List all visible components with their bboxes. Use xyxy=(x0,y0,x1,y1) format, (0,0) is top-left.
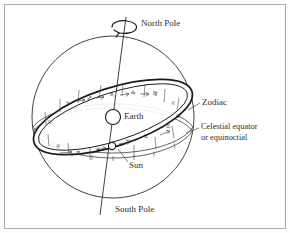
zodiac-glyph-gemini: ♊ xyxy=(166,123,171,129)
zodiac-glyph-pisces: ♓ xyxy=(56,143,61,149)
celestial-sphere-figure: ♏ ♎ ♍ ♌ ♋ ♊ ♐ ♑ ♈ ♓ ♒ ♉ ♓ ♈ North Pole S… xyxy=(0,0,290,233)
zodiac-glyph-aquarius: ♒ xyxy=(76,149,81,155)
celestial-equator-label-line2: or equinoctial xyxy=(201,133,248,142)
diagram-canvas: ♏ ♎ ♍ ♌ ♋ ♊ ♐ ♑ ♈ ♓ ♒ ♉ ♓ ♈ North Pole S… xyxy=(0,0,290,233)
zodiac-glyph-aries: ♈ xyxy=(48,119,53,125)
celestial-equator-label-line1: Celestial equator xyxy=(201,122,258,131)
sun-body xyxy=(108,142,115,149)
earth-body xyxy=(106,110,121,125)
north-pole-label: North Pole xyxy=(141,18,180,28)
zodiac-glyph-libra: ♎ xyxy=(131,89,136,95)
earth-label: Earth xyxy=(124,111,144,121)
zodiac-glyph-virgo: ♍ xyxy=(153,90,158,96)
zodiac-glyph-leo: ♌ xyxy=(171,100,176,106)
zodiac-glyph-cancer: ♋ xyxy=(176,113,181,119)
sun-label: Sun xyxy=(129,160,144,170)
equator-glyph-aries: ♈ xyxy=(126,138,131,144)
zodiac-label: Zodiac xyxy=(202,97,227,107)
zodiac-glyph-scorpio: ♏ xyxy=(110,91,115,97)
equator-glyph-pisces: ♓ xyxy=(96,146,101,152)
zodiac-glyph-capricorn: ♑ xyxy=(66,100,71,106)
zodiac-glyph-taurus: ♉ xyxy=(144,133,149,139)
south-pole-label: South Pole xyxy=(115,204,154,214)
zodiac-glyph-sagittarius: ♐ xyxy=(87,95,92,101)
